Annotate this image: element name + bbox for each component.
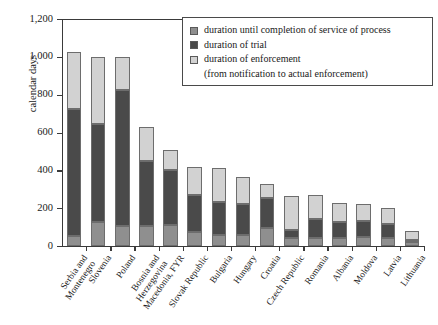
bar-segment-enforcement [139, 127, 154, 161]
bar-segment-service [212, 235, 227, 246]
x-tick-mark [352, 246, 353, 251]
bar-segment-enforcement [405, 231, 420, 240]
bar-segment-trial [284, 230, 299, 239]
x-tick-mark [134, 246, 135, 251]
bar-segment-trial [332, 222, 347, 237]
bar-segment-enforcement [356, 204, 371, 221]
bar-segment-enforcement [308, 195, 323, 219]
bar-segment-enforcement [91, 57, 106, 124]
x-tick-mark [376, 246, 377, 251]
bar [381, 208, 396, 246]
bar-segment-trial [115, 90, 130, 226]
bar-segment-service [260, 228, 275, 246]
legend-item-service: duration until completion of service of … [190, 24, 425, 36]
bar-segment-enforcement [187, 167, 202, 195]
bar-segment-service [139, 226, 154, 246]
bar [91, 57, 106, 246]
bar-segment-service [163, 225, 178, 246]
bar [332, 203, 347, 246]
bar-segment-service [187, 232, 202, 246]
legend-swatch-trial-icon [190, 41, 198, 49]
bar-segment-enforcement [260, 184, 275, 198]
y-tick-mark [57, 246, 62, 247]
x-tick-mark [86, 246, 87, 251]
bar [212, 168, 227, 246]
bar-segment-trial [356, 221, 371, 236]
legend: duration until completion of service of … [182, 17, 433, 86]
x-tick-mark [207, 246, 208, 251]
bar-segment-enforcement [67, 52, 82, 109]
y-tick-label: 1,200 [29, 12, 53, 26]
bar [284, 196, 299, 246]
legend-swatch-service-icon [190, 27, 198, 35]
bar-segment-trial [212, 202, 227, 235]
bar [187, 167, 202, 246]
x-tick-mark [231, 246, 232, 251]
legend-item-enforcement: duration of enforcement [190, 53, 425, 65]
y-tick-label: 1,000 [29, 49, 53, 63]
bar-segment-trial [67, 109, 82, 236]
bar-segment-service [381, 238, 396, 246]
x-tick-mark [110, 246, 111, 251]
y-tick-label: 800 [37, 87, 53, 101]
x-tick-mark [183, 246, 184, 251]
bar-segment-trial [405, 240, 420, 242]
bar-segment-service [405, 242, 420, 246]
bar-segment-service [284, 238, 299, 246]
bar-segment-service [67, 236, 82, 246]
bar-segment-trial [139, 161, 154, 226]
bar [405, 231, 420, 246]
x-tick-mark [159, 246, 160, 251]
legend-label-service: duration until completion of service of … [204, 24, 391, 36]
bar-segment-enforcement [332, 203, 347, 222]
bar-segment-service [356, 237, 371, 246]
bar [67, 52, 82, 246]
y-tick-label: 400 [37, 163, 53, 177]
bar-segment-trial [381, 224, 396, 238]
legend-sub-note: (from notification to actual enforcement… [190, 68, 425, 80]
legend-label-trial: duration of trial [204, 39, 267, 51]
bar-segment-service [332, 238, 347, 247]
legend-item-trial: duration of trial [190, 39, 425, 51]
bar-chart: calendar days 02004006008001,0001,200 Se… [0, 0, 438, 325]
bar-segment-enforcement [212, 168, 227, 201]
y-tick-label: 200 [37, 201, 53, 215]
x-tick-mark [327, 246, 328, 251]
bar [163, 150, 178, 246]
bar-segment-service [91, 222, 106, 246]
bar-segment-enforcement [381, 208, 396, 224]
x-tick-mark [255, 246, 256, 251]
bar [139, 127, 154, 246]
bar [356, 204, 371, 246]
bar [115, 57, 130, 246]
bar [308, 195, 323, 246]
bar-segment-trial [91, 124, 106, 222]
bar-segment-enforcement [236, 177, 251, 204]
bar-segment-enforcement [115, 57, 130, 90]
bar-segment-service [236, 235, 251, 246]
bar-segment-enforcement [284, 196, 299, 230]
bar-segment-enforcement [163, 150, 178, 171]
x-axis-baseline [62, 246, 424, 247]
bar-segment-service [115, 226, 130, 246]
legend-label-enforcement: duration of enforcement [204, 53, 301, 65]
y-tick-label: 0 [48, 239, 53, 253]
bar [260, 184, 275, 246]
x-tick-mark [424, 246, 425, 251]
x-tick-mark [303, 246, 304, 251]
y-axis-title: calendar days [27, 14, 38, 154]
bar-segment-trial [163, 170, 178, 225]
bar [236, 177, 251, 246]
bar-segment-trial [236, 204, 251, 234]
x-tick-mark [279, 246, 280, 251]
bar-segment-trial [308, 219, 323, 238]
legend-swatch-enforcement-icon [190, 56, 198, 64]
y-tick-label: 600 [37, 125, 53, 139]
bar-segment-trial [260, 198, 275, 228]
bar-segment-service [308, 238, 323, 247]
bar-segment-trial [187, 195, 202, 232]
x-tick-mark [400, 246, 401, 251]
